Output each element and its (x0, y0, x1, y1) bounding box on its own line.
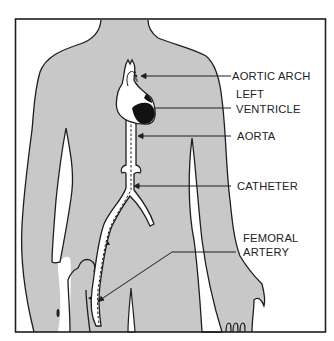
label-femoral-artery-line2: ARTERY (243, 246, 298, 259)
catheterization-diagram: AORTIC ARCH LEFT VENTRICLE AORTA CATHETE… (0, 0, 334, 341)
label-aorta: AORTA (237, 130, 276, 143)
anatomy-illustration (0, 0, 334, 341)
label-femoral-artery-line1: FEMORAL (243, 232, 298, 245)
label-left-ventricle-line1: LEFT (236, 88, 301, 101)
left-hand-mark (57, 309, 60, 317)
label-aorta-text: AORTA (237, 130, 276, 143)
label-aortic-arch-text: AORTIC ARCH (232, 70, 310, 83)
label-femoral-artery: FEMORAL ARTERY (243, 232, 298, 258)
label-aortic-arch: AORTIC ARCH (232, 70, 310, 83)
label-catheter-text: CATHETER (237, 180, 298, 193)
body-silhouette (22, 20, 265, 332)
label-left-ventricle-line2: VENTRICLE (236, 103, 301, 116)
label-left-ventricle: LEFT VENTRICLE (236, 88, 301, 115)
label-catheter: CATHETER (237, 180, 298, 193)
